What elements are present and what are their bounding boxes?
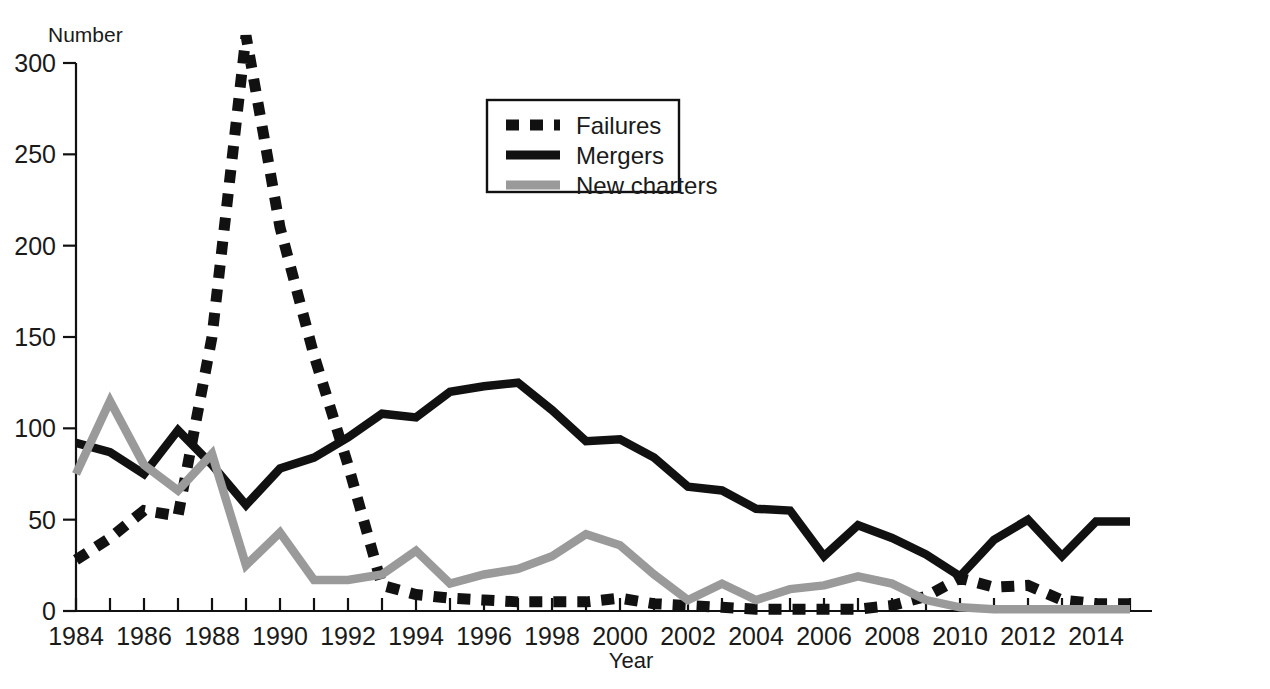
y-tick-label: 0: [42, 597, 56, 625]
x-tick-label: 2002: [660, 622, 716, 650]
y-tick-label: 200: [14, 232, 56, 260]
legend-label-mergers: Mergers: [576, 142, 664, 169]
chart-container: 050100150200250300 198419861988199019921…: [0, 0, 1270, 689]
x-tick-label: 1992: [320, 622, 376, 650]
x-tick-label: 1984: [48, 622, 104, 650]
x-tick-label: 1990: [252, 622, 308, 650]
series-line-new-charters: [76, 401, 1130, 609]
x-tick-label: 2010: [932, 622, 988, 650]
y-tick-label: 250: [14, 140, 56, 168]
line-chart: 050100150200250300 198419861988199019921…: [0, 0, 1270, 689]
y-tick-label: 100: [14, 414, 56, 442]
x-tick-label: 1988: [184, 622, 240, 650]
legend: FailuresMergersNew charters: [487, 100, 717, 199]
x-tick-label: 1998: [524, 622, 580, 650]
legend-label-new-charters: New charters: [576, 172, 717, 199]
x-tick-label: 2014: [1068, 622, 1124, 650]
x-axis-title: Year: [609, 648, 653, 673]
y-axis-title: Number: [48, 23, 123, 46]
x-tick-label: 2006: [796, 622, 852, 650]
series-line-mergers: [76, 383, 1130, 577]
y-axis-tick-group: 050100150200250300: [14, 49, 76, 625]
x-tick-label: 1986: [116, 622, 172, 650]
x-tick-label: 1994: [388, 622, 444, 650]
x-tick-label: 2004: [728, 622, 784, 650]
y-tick-label: 150: [14, 323, 56, 351]
x-tick-label: 2008: [864, 622, 920, 650]
y-tick-label: 50: [28, 506, 56, 534]
legend-label-failures: Failures: [576, 112, 661, 139]
x-tick-label: 2012: [1000, 622, 1056, 650]
y-tick-label: 300: [14, 49, 56, 77]
x-tick-label: 1996: [456, 622, 512, 650]
x-tick-label: 2000: [592, 622, 648, 650]
legend-entries: FailuresMergersNew charters: [506, 112, 717, 199]
